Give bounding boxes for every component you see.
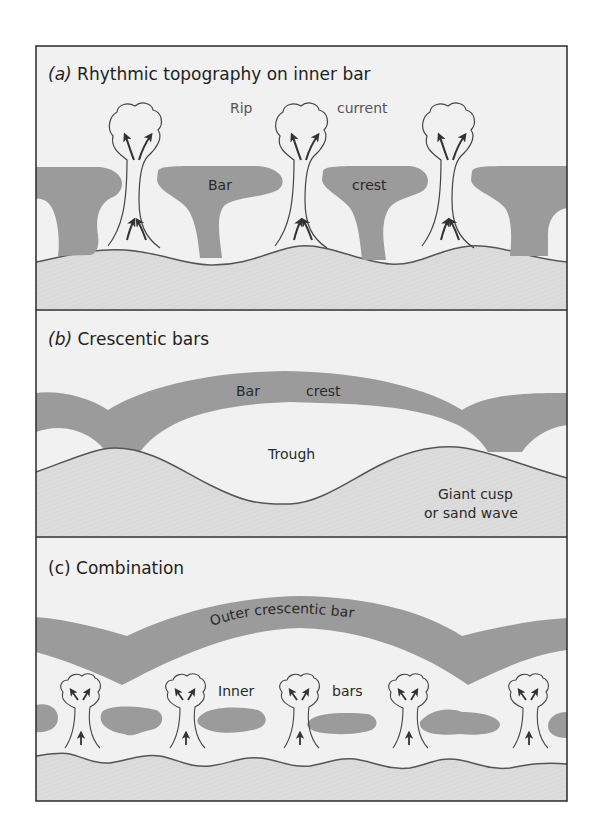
label-trough: Trough [267,446,315,462]
panel-a: (a) Rhythmic topography on inner bar Rip… [36,46,567,309]
panel-a-title: (a) Rhythmic topography on inner bar [48,64,371,84]
label-bar-b: Bar [236,383,260,399]
label-bars: bars [332,683,363,699]
label-crest-b: crest [306,383,341,399]
label-current: current [337,100,388,116]
label-crest-a: crest [352,177,387,193]
label-inner: Inner [218,683,254,699]
panel-b: (b) Crescentic bars Bar crest Trough Gia… [36,311,567,536]
panel-c-title: (c) Combination [48,558,184,578]
nearshore-bar-diagram: (a) Rhythmic topography on inner bar Rip… [0,0,598,835]
label-rip: Rip [230,100,253,116]
panel-c: (c) Combination Outer crescentic bar Inn… [36,538,567,801]
label-giant-cusp: Giant cusp [438,486,513,502]
label-bar-a: Bar [208,177,232,193]
label-sand-wave: or sand wave [424,505,518,521]
beach-a [36,246,567,309]
panel-b-title: (b) Crescentic bars [48,329,209,349]
